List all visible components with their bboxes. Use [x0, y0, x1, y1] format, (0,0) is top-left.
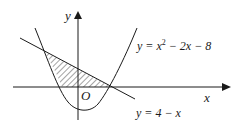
x-axis-arrow-icon	[222, 83, 231, 91]
parabola-equation: y = x2 − 2x − 8	[136, 38, 211, 53]
y-axis-label: y	[63, 8, 71, 23]
origin-label: O	[81, 88, 91, 103]
parabola-equation-prefix: y = x	[136, 39, 162, 53]
x-axis-label: x	[203, 90, 210, 105]
parabola-equation-suffix: − 2x − 8	[166, 39, 212, 53]
line-equation: y = 4 − x	[135, 106, 182, 120]
y-axis-arrow-icon	[74, 11, 82, 19]
graph-diagram: y x O y = x2 − 2x − 8 y = 4 − x	[0, 0, 240, 125]
